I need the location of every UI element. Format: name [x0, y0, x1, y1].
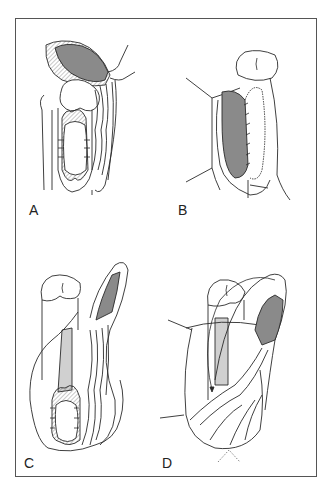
surgical-illustration [0, 0, 333, 494]
panel-label-b: B [178, 202, 187, 218]
panel-b-drawing [186, 51, 290, 200]
panel-label-a: A [29, 202, 38, 218]
panel-label-d: D [162, 455, 172, 471]
panel-d-drawing [160, 274, 286, 462]
panel-label-c: C [24, 455, 34, 471]
panel-a-drawing [40, 41, 135, 195]
panel-c-drawing [30, 262, 128, 450]
